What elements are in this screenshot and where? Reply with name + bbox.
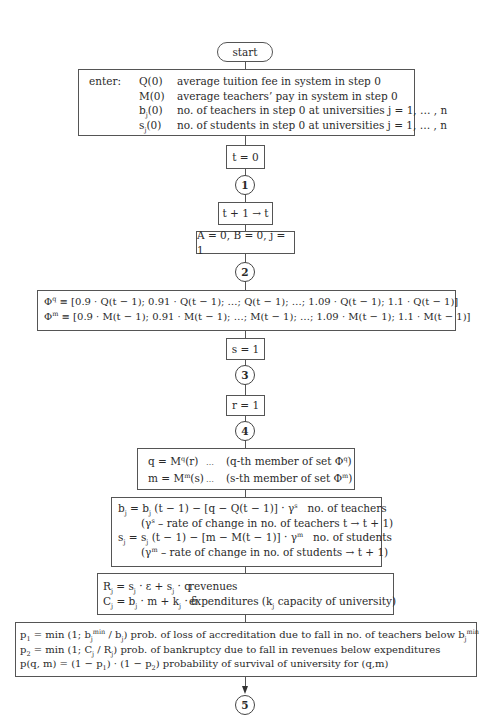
increment-box: t + 1 → t [218,202,273,225]
connector-2: 2 [235,262,255,282]
flow-line [245,615,246,622]
init-time-box: t = 0 [226,145,265,169]
s-init-label: s = 1 [232,342,260,357]
students-note: (γm – rate of change in no. of students … [118,545,381,560]
reset-label: A = 0, B = 0, j = 1 [197,228,294,257]
connector-5: 5 [235,695,255,715]
start-terminal: start [217,42,273,62]
students-update: sj = sj (t − 1) − [m − M(t − 1)] · γm no… [118,530,381,545]
init-time-label: t = 0 [232,150,258,165]
revenue-formula: Rj = sj · ε + sj · qrevenues [103,579,393,594]
input-label: enter: [89,74,139,89]
increment-label: t + 1 → t [222,206,268,221]
teachers-update: bj = bj (t − 1) − [q − Q(t − 1)] · γs no… [118,501,381,516]
teachers-note: (γs – rate of change in no. of teachers … [118,516,381,531]
flow-line [245,331,246,338]
flow-line [245,61,246,69]
phi-m-definition: Φm ≡ [0.9 · M(t − 1); 0.91 · M(t − 1); …… [44,310,455,325]
s-init-box: s = 1 [226,338,265,360]
arrow-head-icon [242,686,248,694]
input-symbol: M(0) [139,89,177,104]
p1-formula: p1 = min (1; bjmin / bj) prob. of loss o… [20,628,476,643]
expenditure-formula: Cj = bj · m + kj · δexpenditures (kj cap… [103,594,393,609]
phi-sets-box: Φq ≡ [0.9 · Q(t − 1); 0.91 · Q(t − 1); …… [37,290,456,331]
connector-1: 1 [235,175,255,195]
r-init-box: r = 1 [226,395,265,416]
phi-q-definition: Φq ≡ [0.9 · Q(t − 1); 0.91 · Q(t − 1); …… [44,295,455,310]
survival-formula: p(q, m) = (1 − p1) · (1 − p2) probabilit… [20,657,476,672]
input-description: average teachers’ pay in system in step … [177,89,447,104]
input-description: no. of students in step 0 at universitie… [177,118,447,133]
input-description: no. of teachers in step 0 at universitie… [177,103,447,118]
input-symbol: bj(0) [139,103,177,118]
flow-line [245,490,246,497]
input-symbol: sj(0) [139,118,177,133]
flow-line [245,136,246,145]
reset-box: A = 0, B = 0, j = 1 [196,231,295,254]
p2-formula: p2 = min (1; Cj / Rj) prob. of bankruptc… [20,643,476,658]
finance-box: Rj = sj · ε + sj · qrevenues Cj = bj · m… [97,573,394,615]
input-description: average tuition fee in system in step 0 [177,74,447,89]
connector-3: 3 [235,365,255,385]
input-list: enter: Q(0) average tuition fee in syste… [89,74,414,132]
connector-4: 4 [235,421,255,441]
update-box: bj = bj (t − 1) − [q − Q(t − 1)] · γs no… [111,497,382,567]
r-init-label: r = 1 [232,398,259,413]
start-label: start [232,45,257,60]
input-box: enter: Q(0) average tuition fee in syste… [78,69,415,136]
input-symbol: Q(0) [139,74,177,89]
m-selection: m = Mm(s)…(s-th member of set Φm) [148,471,354,488]
q-selection: q = Mq(r)…(q-th member of set Φq) [148,454,354,471]
probability-box: p1 = min (1; bjmin / bj) prob. of loss o… [15,622,477,677]
selection-box: q = Mq(r)…(q-th member of set Φq) m = Mm… [137,448,355,490]
